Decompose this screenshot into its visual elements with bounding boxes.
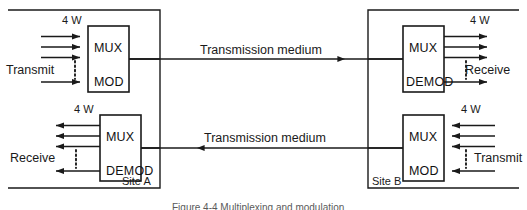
site-b-label: Site B [372,176,401,187]
site-b-receive-mux-label: MUX [409,42,437,55]
site-a-receive-port-label: Receive [10,152,55,165]
site-b-transmit-mod-label: MOD [409,165,439,178]
site-a-transmit-mod-label: MOD [94,76,124,89]
site-a-receive-channel-arrows [56,126,100,172]
site-b-receive-wire-label: 4 W [470,15,490,26]
site-b-transmit-wire-label: 4 W [461,104,481,115]
site-b-transmit-mux-label: MUX [409,131,437,144]
site-a-transmit-mux-label: MUX [94,42,122,55]
site-a-transmit-port-label: Transmit [6,64,54,77]
site-a-receive-wire-label: 4 W [74,104,94,115]
figure-canvas: 4 W MUX MOD Transmit 4 W MUX DEMOD Recei… [0,0,527,210]
site-b-receive-port-label: Receive [465,64,510,77]
figure-caption: Figure 4-4 Multiplexing and modulation [172,203,344,210]
site-b-receive-demod-label: DEMOD [406,76,454,89]
site-b-transmit-port-label: Transmit [474,152,522,165]
site-a-label: Site A [122,176,151,187]
transmission-medium-label-bottom: Transmission medium [204,132,326,145]
site-a-receive-mux-label: MUX [106,131,134,144]
transmission-medium-label-top: Transmission medium [200,44,322,57]
site-a-transmit-wire-label: 4 W [62,15,82,26]
